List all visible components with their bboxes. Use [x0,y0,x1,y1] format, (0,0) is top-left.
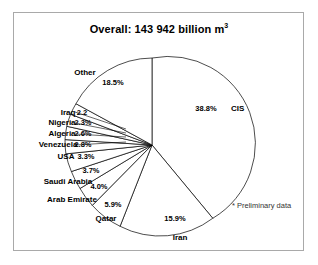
pie-label-usa-value: 3.3% [77,152,94,161]
pie-label-cis-value: 38.8% [195,104,217,113]
pie-label-nigeria-value: 2.3% [74,118,91,127]
pie-slices [65,56,255,236]
pie-label-iran-value: 15.9% [164,214,186,223]
pie-chart: 38.8% 15.9% 5.9% 4.0% 3.7% 3.3% 2.8% 2.6… [0,0,318,265]
chart-image: Overall: 143 942 billion m3 38.8% 15.9% [0,0,318,265]
pie-label-qatar-name: Qatar [96,214,117,223]
pie-label-saudi-arabia-name: Saudi Arabia [44,177,93,186]
pie-label-iraq-value: 2.2 [77,108,87,117]
footnote-preliminary-data: * Preliminary data [232,201,292,210]
pie-label-arab-emirate-name: Arab Emirate [47,195,97,204]
pie-label-algeria-name: Algeria [48,129,76,138]
pie-label-qatar-value: 5.9% [104,200,121,209]
pie-label-usa-name: USA [58,152,75,161]
pie-label-nigeria-name: Nigeria [48,118,76,127]
pie-label-other-name: Other [74,68,95,77]
pie-label-arab-emirate-value: 4.0% [90,182,107,191]
pie-label-iraq-name: Iraq [61,108,76,117]
pie-label-saudi-arabia-value: 3.7% [82,166,99,175]
pie-label-algeria-value: 2.6% [74,129,91,138]
pie-label-other-value: 18.5% [102,78,124,87]
pie-label-iran-name: Iran [173,233,188,242]
pie-label-cis-name: CIS [231,104,245,113]
pie-label-venezuela-name: Venezuela [39,140,78,149]
